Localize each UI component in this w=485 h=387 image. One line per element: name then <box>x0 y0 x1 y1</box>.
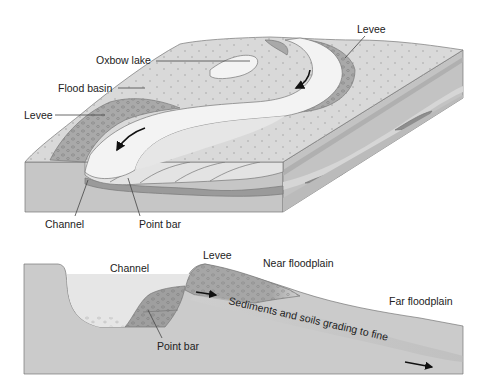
label-channel-section: Channel <box>110 262 149 274</box>
floodplain-diagram: Oxbow lake Flood basin Levee Levee Chann… <box>0 0 485 387</box>
cross-section: Channel Levee Near floodplain Far floodp… <box>24 249 463 374</box>
label-levee-right: Levee <box>357 23 386 35</box>
label-levee-section: Levee <box>203 249 232 261</box>
label-near-floodplain: Near floodplain <box>263 257 334 269</box>
label-levee-left: Levee <box>24 109 53 121</box>
label-channel: Channel <box>45 218 84 230</box>
label-far-floodplain: Far floodplain <box>389 295 453 307</box>
label-flood-basin: Flood basin <box>58 82 112 94</box>
label-point-bar-section: Point bar <box>157 340 200 352</box>
label-oxbow-lake: Oxbow lake <box>96 54 151 66</box>
block-diagram: Oxbow lake Flood basin Levee Levee Chann… <box>24 23 463 230</box>
label-point-bar: Point bar <box>139 218 182 230</box>
